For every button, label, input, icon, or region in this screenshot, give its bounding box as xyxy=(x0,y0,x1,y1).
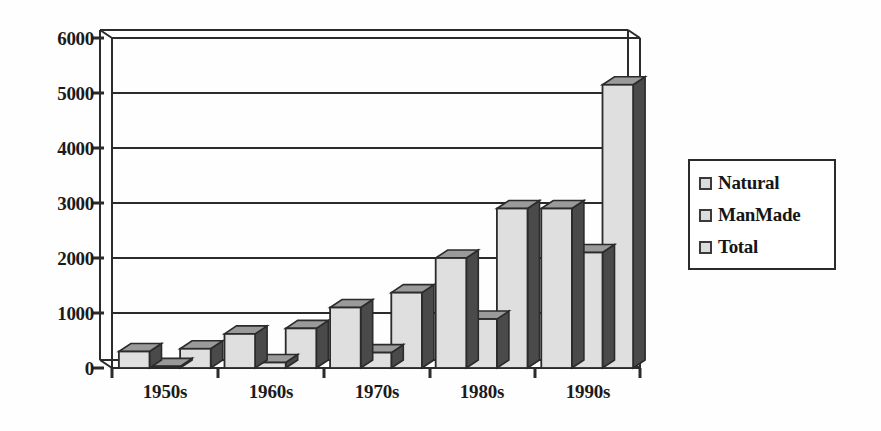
bar-front-face xyxy=(119,352,150,369)
bar-side-face xyxy=(528,201,540,369)
y-tick-label: 3000 xyxy=(57,194,94,213)
bar-1950s-natural xyxy=(119,344,162,369)
legend-item-natural: Natural xyxy=(699,167,834,199)
chart-legend: Natural ManMade Total xyxy=(688,159,836,270)
x-tick-label-1980s: 1980s xyxy=(460,381,504,403)
y-tick-label: 6000 xyxy=(57,29,94,48)
x-axis-ticks xyxy=(112,368,640,378)
bar-1990s-natural xyxy=(541,201,584,369)
legend-swatch-icon xyxy=(699,177,712,190)
bars-layer xyxy=(119,77,645,368)
legend-swatch-icon xyxy=(699,241,712,254)
bar-side-face xyxy=(572,201,584,369)
bar-side-face xyxy=(633,77,645,368)
legend-swatch-icon xyxy=(699,209,712,222)
legend-label: ManMade xyxy=(718,204,800,226)
y-tick-label: 5000 xyxy=(57,84,94,103)
bar-side-face xyxy=(361,300,373,369)
legend-label: Total xyxy=(718,236,758,258)
bar-side-face xyxy=(497,311,509,368)
bar-front-face xyxy=(330,308,361,369)
legend-item-total: Total xyxy=(699,231,834,263)
y-axis-labels: 6000 5000 4000 3000 2000 1000 0 xyxy=(28,0,94,431)
bar-side-face xyxy=(603,245,615,369)
bar-1970s-natural xyxy=(330,300,373,369)
y-tick-label: 0 xyxy=(85,359,94,378)
bar-1960s-natural xyxy=(224,326,267,368)
bar-chart: 6000 5000 4000 3000 2000 1000 0 1950s 19… xyxy=(0,0,881,431)
x-tick-label-1990s: 1990s xyxy=(566,381,610,403)
bar-front-face xyxy=(541,209,572,369)
y-tick-label: 2000 xyxy=(57,249,94,268)
bar-1980s-natural xyxy=(436,250,479,368)
bar-front-face xyxy=(224,334,255,368)
bar-front-face xyxy=(149,366,180,368)
legend-item-manmade: ManMade xyxy=(699,199,834,231)
y-tick-label: 1000 xyxy=(57,304,94,323)
y-tick-label: 4000 xyxy=(57,139,94,158)
bar-front-face xyxy=(436,258,467,368)
legend-label: Natural xyxy=(718,172,779,194)
x-tick-label-1950s: 1950s xyxy=(143,381,187,403)
x-tick-label-1970s: 1970s xyxy=(355,381,399,403)
bar-side-face xyxy=(466,250,478,368)
bar-side-face xyxy=(422,285,434,368)
x-tick-label-1960s: 1960s xyxy=(249,381,293,403)
